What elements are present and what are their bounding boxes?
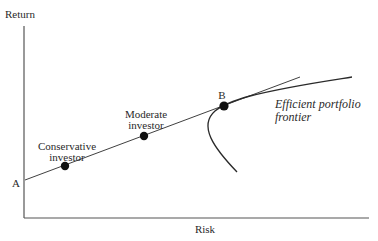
efficient-frontier-curve <box>208 77 352 172</box>
conservative-investor-label: Conservative investor <box>38 141 96 163</box>
moderate-investor-label: Moderate investor <box>125 109 167 131</box>
conservative-label-line2: investor <box>38 152 96 163</box>
point-a-label: A <box>12 178 20 189</box>
frontier-label-line2: frontier <box>275 111 361 124</box>
point-b <box>219 101 228 110</box>
moderate-investor-point <box>140 132 148 140</box>
moderate-label-line2: investor <box>125 120 167 131</box>
point-b-label: B <box>218 90 225 101</box>
efficient-frontier-label: Efficient portfolio frontier <box>275 98 361 124</box>
x-axis-label: Risk <box>195 224 215 235</box>
y-axis-label: Return <box>5 9 35 20</box>
conservative-investor-point <box>61 162 69 170</box>
